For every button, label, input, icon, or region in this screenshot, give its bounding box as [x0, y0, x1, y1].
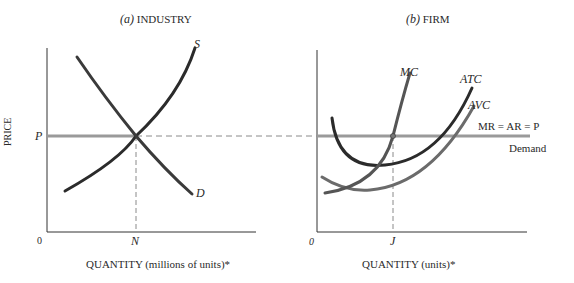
avc-label-container: AVC — [468, 98, 490, 113]
industry-title-prefix: (a) — [120, 12, 134, 26]
firm-demand-label: Demand — [509, 142, 546, 154]
diagram-canvas — [0, 0, 574, 283]
industry-title-text: INDUSTRY — [137, 13, 192, 25]
industry-x-axis-label: QUANTITY (millions of units)* — [86, 258, 230, 270]
firm-title-text: FIRM — [423, 13, 450, 25]
firm-x-axis-label: QUANTITY (units)* — [362, 258, 455, 270]
demand-label: D — [196, 186, 205, 200]
firm-title: (b) FIRM — [406, 12, 450, 27]
firm-quantity-label: J — [390, 234, 395, 248]
price-label: P — [35, 129, 42, 143]
avc-label: AVC — [468, 98, 490, 112]
atc-label: ATC — [460, 72, 482, 86]
industry-title: (a) INDUSTRY — [120, 12, 192, 27]
firm-title-prefix: (b) — [406, 12, 420, 26]
mc-label-container: MC — [400, 65, 418, 80]
price-label-container: P — [35, 129, 42, 144]
industry-quantity-label-container: N — [131, 234, 139, 249]
supply-label: S — [194, 37, 200, 51]
supply-label-container: S — [194, 37, 200, 52]
price-line-label: MR = AR = P — [478, 120, 539, 132]
mc-curve — [325, 73, 410, 193]
atc-label-container: ATC — [460, 72, 482, 87]
industry-quantity-label: N — [131, 234, 139, 248]
demand-label-container: D — [196, 186, 205, 201]
firm-origin-label: 0 — [309, 236, 314, 247]
price-axis-label: PRICE — [2, 118, 13, 146]
firm-equilibrium-point — [391, 134, 396, 139]
mc-label: MC — [400, 65, 418, 79]
industry-origin-label: 0 — [37, 235, 42, 246]
firm-quantity-label-container: J — [390, 234, 395, 249]
